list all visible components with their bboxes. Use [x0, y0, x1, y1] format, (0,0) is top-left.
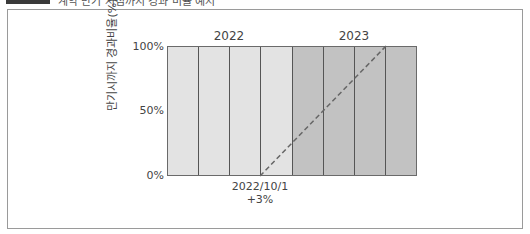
- start-date-label: 2022/10/1: [210, 180, 310, 193]
- start-rate-label: +3%: [210, 193, 310, 206]
- start-date-annotation: 2022/10/1 +3%: [210, 180, 310, 206]
